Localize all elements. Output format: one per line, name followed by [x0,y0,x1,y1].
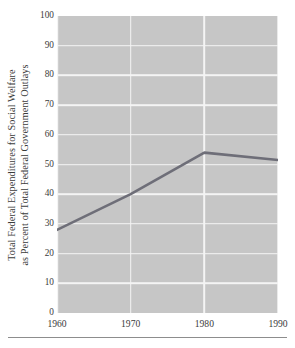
bottom-rule [8,337,287,338]
y-axis-tick-label: 80 [30,71,54,80]
y-axis-label-line-1: Total Federal Expenditures for Social We… [5,64,18,265]
y-axis-tick-label: 60 [30,130,54,139]
plot-area [57,16,278,313]
y-axis-tick-label: 50 [30,160,54,169]
series-line [57,16,278,313]
y-axis-label-text: Total Federal Expenditures for Social We… [5,64,31,265]
y-axis-tick-label: 40 [30,190,54,199]
x-axis-tick-label: 1960 [47,317,66,331]
y-axis-tick-label: 30 [30,219,54,228]
y-axis-tick-label: 90 [30,41,54,50]
x-axis-tick-label: 1970 [121,317,140,331]
y-axis-tick-label: 100 [30,11,54,20]
chart-figure: Total Federal Expenditures for Social We… [0,0,295,348]
y-axis-tick-label: 10 [30,279,54,288]
x-axis-tick-label: 1990 [268,317,287,331]
y-axis-tick-labels: 0102030405060708090100 [30,16,54,313]
x-axis-tick-labels: 1960197019801990 [57,317,278,333]
y-axis-tick-label: 20 [30,249,54,258]
y-axis-tick-label: 70 [30,100,54,109]
x-axis-tick-label: 1980 [195,317,214,331]
